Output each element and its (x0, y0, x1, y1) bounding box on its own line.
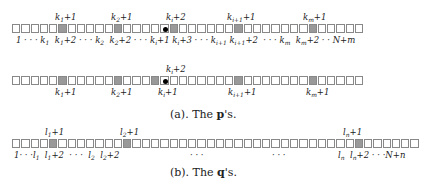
cell (170, 76, 178, 85)
cell (355, 24, 363, 33)
cell (68, 24, 76, 33)
cell (225, 76, 233, 85)
cell (216, 76, 224, 85)
cell (346, 24, 354, 33)
caption-a: (a). The p's. (170, 108, 236, 121)
cell (179, 24, 187, 33)
caption-b: (b). The q's. (170, 166, 237, 179)
cell (151, 24, 159, 33)
cell (95, 139, 103, 148)
cell (160, 139, 168, 148)
marked-cell-l1 (49, 139, 57, 148)
cell (86, 139, 94, 148)
cell (86, 76, 94, 85)
label-ki1-plus-1: ki+1+1 (228, 88, 256, 98)
marked-cell-km (309, 76, 317, 85)
cell (401, 139, 409, 148)
marked-cell-k2 (114, 76, 122, 85)
label-km-plus-1: km+1 (303, 13, 326, 23)
cell (31, 139, 39, 148)
cell (216, 24, 224, 33)
p-row-2 (12, 76, 364, 85)
cell (142, 139, 150, 148)
marked-cell-ki1 (234, 24, 242, 33)
cell (299, 76, 307, 85)
cell (262, 76, 270, 85)
cell (12, 24, 20, 33)
label-k2-plus-1: k2+1 (111, 13, 133, 23)
marked-cell-ki (170, 24, 178, 33)
cell (12, 76, 20, 85)
cell (253, 139, 261, 148)
cell (281, 24, 289, 33)
cell (31, 24, 39, 33)
cell (271, 76, 279, 85)
cell (179, 76, 187, 85)
cell (197, 76, 205, 85)
cell (132, 24, 140, 33)
cell (346, 76, 354, 85)
cell (40, 24, 48, 33)
cell (40, 139, 48, 148)
cell (77, 24, 85, 33)
cell (244, 24, 252, 33)
cell (355, 76, 363, 85)
cell (225, 24, 233, 33)
cell (271, 24, 279, 33)
cell (327, 24, 335, 33)
cell (179, 139, 187, 148)
cell (336, 24, 344, 33)
cell (327, 139, 335, 148)
cell (197, 24, 205, 33)
cell (271, 139, 279, 148)
cell (86, 24, 94, 33)
cell (21, 139, 29, 148)
cell (188, 139, 196, 148)
p-row-1 (12, 24, 364, 33)
cell (373, 139, 381, 148)
cell (299, 139, 307, 148)
marked-cell-ki (151, 76, 159, 85)
cell (318, 76, 326, 85)
cell (383, 139, 391, 148)
label-ln-plus-1: ln+1 (343, 128, 362, 138)
cell (364, 139, 372, 148)
cell (151, 139, 159, 148)
dot-cell (160, 76, 168, 85)
cell (346, 139, 354, 148)
cell (290, 139, 298, 148)
cell (253, 24, 261, 33)
cell (290, 24, 298, 33)
label-ki-plus-2: ki+2 (166, 65, 186, 75)
label-k1-plus-1: k1+1 (55, 88, 77, 98)
cell (392, 139, 400, 148)
cell (207, 76, 215, 85)
cell (216, 139, 224, 148)
ellipsis-1: · · · (190, 151, 204, 160)
dot-cell (160, 24, 168, 33)
cell (290, 76, 298, 85)
cell (225, 139, 233, 148)
label-ki-plus-2: ki+2 (166, 13, 186, 23)
cell (336, 139, 344, 148)
cell (234, 139, 242, 148)
cell (262, 24, 270, 33)
cell (197, 139, 205, 148)
cell (49, 24, 57, 33)
cell (170, 139, 178, 148)
ellipsis-2: · · · (272, 151, 286, 160)
cell (58, 139, 66, 148)
label-ki-plus-1: ki+1 (158, 88, 178, 98)
cell (123, 76, 131, 85)
label-k2-plus-1: k2+1 (111, 88, 133, 98)
cell (188, 24, 196, 33)
cell (327, 76, 335, 85)
cell (188, 76, 196, 85)
cell (299, 24, 307, 33)
cell (105, 24, 113, 33)
cell (318, 24, 326, 33)
cell (49, 76, 57, 85)
cell (142, 76, 150, 85)
label-below-row1: 1 · · · k1 k1+2 · · · k2 k2+2 · · · ki+1… (16, 36, 355, 46)
cell (207, 24, 215, 33)
